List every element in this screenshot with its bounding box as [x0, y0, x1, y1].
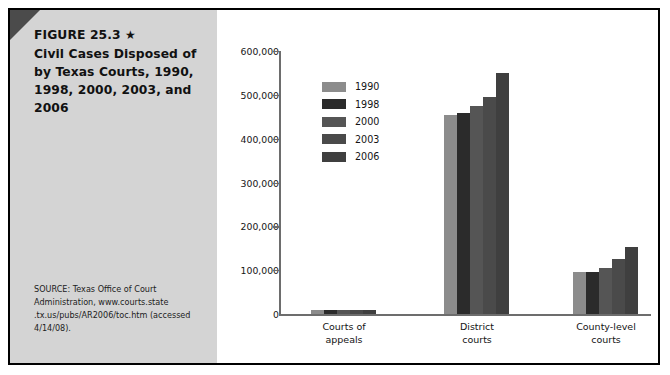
bar-group-1 [311, 51, 376, 314]
bar-courts-of-appeals-1990[interactable] [311, 310, 324, 314]
bar-group-3 [573, 51, 638, 314]
x-axis-category-label-2: Districtcourts [422, 320, 532, 347]
bar-district-courts-1998[interactable] [457, 113, 470, 314]
bar-county-level-courts-2000[interactable] [599, 268, 612, 314]
bar-county-level-courts-2006[interactable] [625, 247, 638, 314]
figure-container: FIGURE 25.3 ★ Civil Cases Disposed of by… [8, 8, 660, 365]
y-axis-tick-label: 500,000 [227, 89, 279, 100]
y-axis-tick-label: 100,000 [227, 265, 279, 276]
figure-title-line-1: Civil Cases Disposed of [34, 47, 196, 61]
figure-title-line-4: 2006 [34, 101, 69, 115]
bar-district-courts-1990[interactable] [444, 115, 457, 314]
x-axis-label-line: District [460, 321, 494, 332]
y-axis-tick-label: 0 [227, 309, 279, 320]
figure-title-line-2: by Texas Courts, 1990, [34, 65, 194, 79]
bar-courts-of-appeals-2000[interactable] [337, 310, 350, 314]
x-axis-label-line: County-level [576, 321, 636, 332]
x-axis-category-label-3: County-levelcourts [551, 320, 661, 347]
bar-courts-of-appeals-1998[interactable] [324, 310, 337, 314]
y-axis-tick-label: 600,000 [227, 46, 279, 57]
figure-title: FIGURE 25.3 ★ Civil Cases Disposed of by… [34, 26, 206, 117]
figure-title-line-3: 1998, 2000, 2003, and [34, 83, 192, 97]
bar-district-courts-2000[interactable] [470, 106, 483, 314]
y-axis-tick-label: 300,000 [227, 177, 279, 188]
bar-district-courts-2006[interactable] [496, 73, 509, 314]
x-axis-label-line: courts [462, 334, 492, 345]
bar-courts-of-appeals-2003[interactable] [350, 310, 363, 314]
bar-courts-of-appeals-2006[interactable] [363, 310, 376, 314]
bar-district-courts-2003[interactable] [483, 97, 496, 314]
chart-plot-area: 0100,000200,000300,000400,000500,000600,… [217, 10, 658, 363]
source-note: SOURCE: Texas Office of Court Administra… [34, 283, 210, 335]
bar-county-level-courts-1998[interactable] [586, 272, 599, 314]
x-axis-category-label-1: Courts ofappeals [289, 320, 399, 347]
x-axis-label-line: appeals [325, 334, 362, 345]
star-icon: ★ [125, 28, 136, 42]
bar-county-level-courts-2003[interactable] [612, 259, 625, 314]
x-axis-label-line: courts [591, 334, 621, 345]
x-axis-label-line: Courts of [322, 321, 365, 332]
x-axis-line [279, 314, 651, 316]
figure-number: FIGURE 25.3 [34, 28, 121, 42]
y-axis-line [279, 51, 281, 315]
caption-panel: FIGURE 25.3 ★ Civil Cases Disposed of by… [10, 10, 217, 363]
y-axis-tick-label: 200,000 [227, 221, 279, 232]
bar-group-2 [444, 51, 509, 314]
bar-county-level-courts-1990[interactable] [573, 272, 586, 314]
y-axis-tick-label: 400,000 [227, 133, 279, 144]
